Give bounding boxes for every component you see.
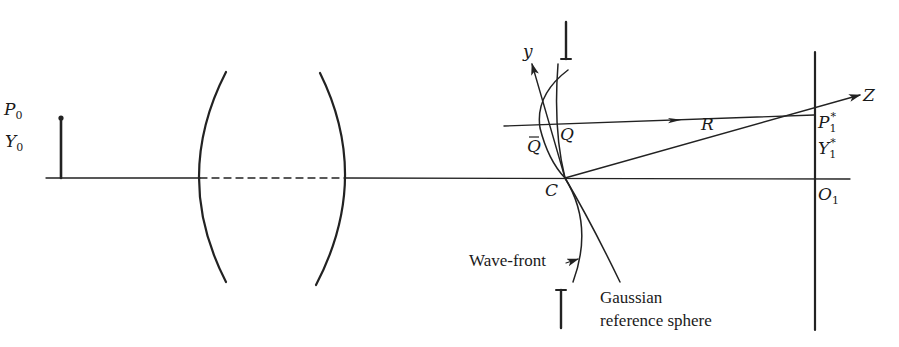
image-point-label: P1*: [817, 110, 836, 135]
reference-sphere-label-line1: Gaussian: [600, 288, 663, 307]
z-axis-label: Z: [862, 85, 876, 105]
image-height-label: Y1*: [818, 136, 836, 161]
exit-pupil-bottom-stop: [556, 290, 566, 328]
optical-diagram: P0 Y0 y Q Q C R Z P1* Y1* O1 Wave-front …: [0, 0, 899, 347]
image-origin-label: O1: [818, 184, 839, 207]
q-bar-label: Q: [527, 136, 541, 156]
exit-pupil-top-stop: [561, 22, 571, 59]
wave-front-pointer: [566, 259, 578, 263]
y-axis-arrow: [532, 64, 565, 178]
y-axis-label: y: [522, 41, 533, 61]
lens-rear-surface: [316, 73, 345, 285]
object-point-label: P0: [3, 99, 22, 122]
wave-front-label: Wave-front: [469, 251, 546, 270]
lens-front-surface: [199, 72, 226, 282]
reference-sphere-label-line2: reference sphere: [600, 311, 712, 330]
radius-label: R: [700, 114, 714, 134]
center-label: C: [545, 180, 558, 200]
gaussian-reference-sphere: [539, 70, 620, 282]
object-height-label: Y0: [5, 131, 23, 154]
q-label: Q: [560, 124, 574, 144]
object-arrow: [58, 115, 63, 178]
optical-axis: [46, 178, 850, 179]
